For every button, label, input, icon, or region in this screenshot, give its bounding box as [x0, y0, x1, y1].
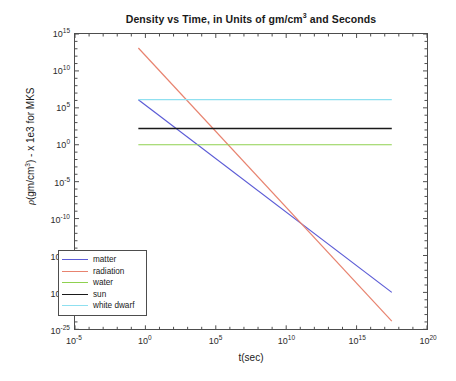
- legend-label: sun: [93, 289, 106, 301]
- legend-label: matter: [93, 254, 116, 266]
- legend-swatch-radiation: [62, 271, 88, 272]
- legend-swatch-sun: [62, 294, 88, 295]
- legend-label: radiation: [93, 266, 124, 278]
- legend-label: water: [93, 277, 113, 289]
- x-tick-label: 1020: [419, 334, 436, 346]
- x-axis-label: t(sec): [74, 352, 428, 363]
- legend-item-sun[interactable]: sun: [62, 289, 142, 301]
- x-tick-label: 1010: [278, 334, 295, 346]
- legend-swatch-white-dwarf: [62, 305, 88, 306]
- legend-swatch-matter: [62, 259, 88, 260]
- x-tick-label: 105: [209, 334, 223, 346]
- legend-item-water[interactable]: water: [62, 277, 142, 289]
- legend[interactable]: matterradiationwatersunwhite dwarf: [58, 250, 147, 316]
- series-line-radiation: [138, 48, 391, 321]
- y-axis-label: ρ(gm/cm3) - x 1e3 for MKS: [24, 36, 36, 256]
- legend-item-matter[interactable]: matter: [62, 254, 142, 266]
- y-tick-label: 10-25: [28, 324, 70, 336]
- legend-item-radiation[interactable]: radiation: [62, 266, 142, 278]
- legend-label: white dwarf: [93, 300, 134, 312]
- figure-canvas: Density vs Time, in Units of gm/cm3 and …: [0, 0, 456, 381]
- chart-title: Density vs Time, in Units of gm/cm3 and …: [74, 12, 428, 25]
- x-tick-label: 1015: [349, 334, 366, 346]
- legend-swatch-water: [62, 282, 88, 283]
- legend-item-white-dwarf[interactable]: white dwarf: [62, 300, 142, 312]
- x-tick-label: 100: [138, 334, 152, 346]
